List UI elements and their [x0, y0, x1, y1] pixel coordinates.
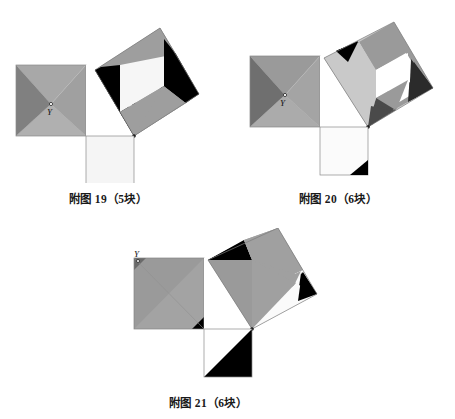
- figure-19-drawing: Y: [8, 8, 213, 183]
- figure-19-caption: 附图 19（5块）: [8, 190, 208, 206]
- figure-20: Y: [228, 18, 443, 188]
- fig21-vertex-label: Y: [134, 249, 140, 259]
- fig19-left-square: Y: [16, 65, 86, 136]
- fig20-left-square: Y: [250, 56, 320, 127]
- figure-21-drawing: Y: [98, 228, 328, 393]
- fig19-bottom-square: [86, 136, 134, 183]
- figure-21: Y: [98, 228, 328, 393]
- fig21-left-square: Y: [134, 249, 204, 329]
- figure-20-drawing: Y: [228, 18, 443, 188]
- figure-20-caption: 附图 20（6块）: [238, 190, 438, 206]
- fig21-bottom-square: [204, 329, 252, 377]
- figure-21-caption: 附图 21（6块）: [108, 394, 308, 410]
- fig20-bottom-square: [320, 127, 368, 175]
- figure-19: Y: [8, 8, 213, 183]
